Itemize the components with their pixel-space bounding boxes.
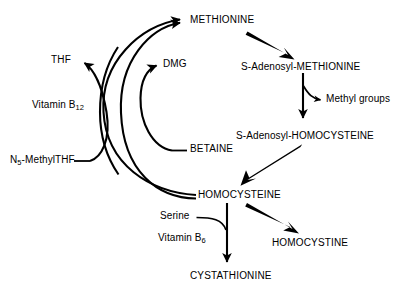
node-cystathionine: CYSTATHIONINE xyxy=(190,271,272,281)
arc-homocysteine-to-methionine-outer xyxy=(103,20,196,196)
arrow-methionine-to-sam xyxy=(246,32,295,60)
node-s-adenosyl-homocysteine: S-Adenosyl-HOMOCYSTEINE xyxy=(236,131,374,141)
n5-methylthf-suffix: -MethylTHF xyxy=(22,154,75,165)
node-n5-methylthf: N5-MethylTHF xyxy=(10,155,75,165)
vitamin-b6-subscript: 6 xyxy=(202,236,206,245)
node-homocystine: HOMOCYSTINE xyxy=(272,238,348,248)
node-homocysteine: HOMOCYSTEINE xyxy=(198,190,281,200)
n5-methylthf-subscript: 5 xyxy=(17,158,21,167)
node-methyl-groups: Methyl groups xyxy=(326,94,390,104)
node-vitamin-b12: Vitamin B12 xyxy=(32,100,84,110)
pathway-diagram-canvas: METHIONINE S-Adenosyl-METHIONINE Methyl … xyxy=(0,0,410,293)
node-s-adenosyl-methionine: S-Adenosyl-METHIONINE xyxy=(241,62,360,72)
node-serine: Serine xyxy=(160,211,190,221)
arrow-serine-branch xyxy=(197,218,227,231)
node-methionine: METHIONINE xyxy=(190,15,254,25)
vitamin-b12-subscript: 12 xyxy=(76,103,85,112)
node-dmg: DMG xyxy=(163,59,187,69)
arrow-sah-to-homocysteine xyxy=(241,144,303,186)
node-vitamin-b6: Vitamin B6 xyxy=(158,233,206,243)
arrow-sam-to-methyl-groups xyxy=(304,86,321,100)
node-betaine: BETAINE xyxy=(190,144,233,154)
arc-betaine-to-dmg xyxy=(140,66,172,151)
arrow-homocysteine-to-homocystine xyxy=(245,203,299,233)
node-thf: THF xyxy=(51,55,71,65)
vitamin-b12-prefix: Vitamin B xyxy=(32,99,76,110)
vitamin-b6-prefix: Vitamin B xyxy=(158,232,202,243)
